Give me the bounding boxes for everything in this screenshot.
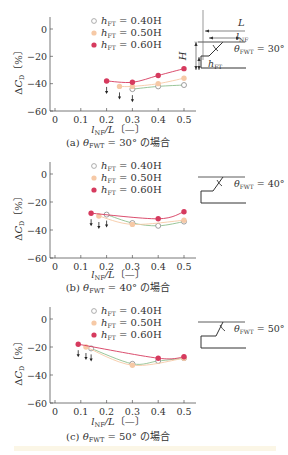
y-tick-label: −60 <box>27 106 47 117</box>
y-tick-label: −40 <box>27 225 47 236</box>
chart-panel-b: 0−20−40−6000.10.20.30.40.5ΔCD〔%〕lNF/L〔—〕… <box>13 160 285 295</box>
y-tick-label: −40 <box>27 370 47 381</box>
data-point <box>76 342 81 347</box>
x-tick-label: 0.5 <box>176 261 191 272</box>
y-axis-label: ΔCD〔%〕 <box>13 336 26 386</box>
y-tick-label: −40 <box>27 78 47 89</box>
x-tick-label: 0.4 <box>151 406 166 417</box>
svg-text:hFT = 0.40H: hFT = 0.40H <box>101 15 162 27</box>
data-point <box>181 76 186 81</box>
x-tick-label: 0 <box>52 406 58 417</box>
panel-caption: (a) θFWT = 30° の場合 <box>66 136 170 150</box>
down-arrow-icon <box>97 222 100 229</box>
y-tick-label: −60 <box>27 398 47 409</box>
y-tick-label: −60 <box>27 253 47 264</box>
data-point <box>88 211 93 216</box>
open-circle-marker-icon <box>92 164 97 169</box>
svg-text:lNF: lNF <box>236 31 248 43</box>
data-point <box>181 66 186 71</box>
svg-text:θFWT = 30°: θFWT = 30° <box>234 43 285 55</box>
x-tick-label: 0.1 <box>73 261 88 272</box>
legend-item: hFT = 0.50H <box>91 27 161 39</box>
panel-caption: (b) θFWT = 40° の場合 <box>66 281 171 295</box>
svg-text:L: L <box>237 17 245 28</box>
x-tick-label: 0.4 <box>151 261 166 272</box>
filled-circle-marker-icon <box>91 175 96 180</box>
legend-item: hFT = 0.50H <box>91 172 161 184</box>
legend-item: hFT = 0.60H <box>91 39 161 51</box>
data-point <box>156 216 161 221</box>
data-point <box>130 363 135 368</box>
data-point <box>156 223 161 228</box>
svg-text:θFWT = 40°: θFWT = 40° <box>234 178 285 190</box>
svg-text:hFT = 0.50H: hFT = 0.50H <box>101 172 162 184</box>
down-arrow-icon <box>105 87 108 94</box>
legend-item: hFT = 0.40H <box>92 305 162 317</box>
filled-circle-marker-icon <box>91 332 96 337</box>
down-arrow-icon <box>90 219 93 226</box>
down-arrow-icon <box>131 95 134 102</box>
x-tick-label: 0.1 <box>73 114 88 125</box>
data-point <box>156 356 161 361</box>
data-point <box>181 209 186 214</box>
svg-text:ΔCD〔%〕: ΔCD〔%〕 <box>13 45 26 95</box>
data-point <box>104 78 109 83</box>
y-tick-label: −20 <box>27 197 47 208</box>
y-tick-label: 0 <box>41 314 47 325</box>
x-tick-label: 0 <box>52 114 58 125</box>
svg-text:θFWT = 50°: θFWT = 50° <box>234 323 285 335</box>
svg-text:hFT: hFT <box>208 58 222 70</box>
svg-text:H: H <box>177 51 188 61</box>
svg-text:ΔCD〔%〕: ΔCD〔%〕 <box>13 336 26 386</box>
legend-item: hFT = 0.60H <box>91 329 161 341</box>
svg-text:hFT = 0.60H: hFT = 0.60H <box>101 329 162 341</box>
data-point <box>156 81 161 86</box>
data-point <box>182 83 187 88</box>
svg-text:hFT = 0.40H: hFT = 0.40H <box>101 160 162 172</box>
legend-item: hFT = 0.40H <box>92 15 162 27</box>
y-tick-label: −20 <box>27 342 47 353</box>
svg-text:hFT = 0.50H: hFT = 0.50H <box>101 317 162 329</box>
x-tick-label: 0 <box>52 261 58 272</box>
y-tick-label: 0 <box>41 169 47 180</box>
legend-item: hFT = 0.60H <box>91 184 161 196</box>
filled-circle-marker-icon <box>91 320 96 325</box>
geometry-diagram: θFWT = 40° <box>198 177 285 203</box>
open-circle-marker-icon <box>92 309 97 314</box>
y-tick-label: 0 <box>41 24 47 35</box>
down-arrow-icon <box>77 350 80 357</box>
data-point <box>130 222 135 227</box>
geometry-diagram: θFWT = 50° <box>198 322 285 348</box>
x-tick-label: 0.5 <box>176 406 191 417</box>
down-arrow-icon <box>90 354 93 361</box>
data-point <box>181 354 186 359</box>
panel-caption: (c) θFWT = 50° の場合 <box>66 430 170 444</box>
svg-text:hFT = 0.60H: hFT = 0.60H <box>101 39 162 51</box>
x-tick-label: 0.1 <box>73 406 88 417</box>
x-axis-label: lNF/L〔—〕 <box>91 124 144 137</box>
data-point <box>117 84 122 89</box>
svg-text:ΔCD〔%〕: ΔCD〔%〕 <box>13 191 26 241</box>
x-tick-label: 0.4 <box>151 114 166 125</box>
y-axis-label: ΔCD〔%〕 <box>13 45 26 95</box>
x-tick-label: 0.5 <box>176 114 191 125</box>
data-point <box>181 218 186 223</box>
chart-panel-a: 0−20−40−6000.10.20.30.40.5ΔCD〔%〕lNF/L〔—〕… <box>13 10 285 150</box>
down-arrow-icon <box>84 353 87 360</box>
bottom-strip <box>14 446 276 451</box>
svg-text:hFT = 0.40H: hFT = 0.40H <box>101 305 162 317</box>
data-point <box>130 80 135 85</box>
x-axis-label: lNF/L〔—〕 <box>91 416 144 429</box>
y-tick-label: −20 <box>27 51 47 62</box>
filled-circle-marker-icon <box>91 30 96 35</box>
legend-item: hFT = 0.50H <box>91 317 161 329</box>
y-axis-label: ΔCD〔%〕 <box>13 191 26 241</box>
down-arrow-icon <box>118 92 121 99</box>
svg-text:hFT = 0.60H: hFT = 0.60H <box>101 184 162 196</box>
svg-text:hFT = 0.50H: hFT = 0.50H <box>101 27 162 39</box>
filled-circle-marker-icon <box>91 187 96 192</box>
legend-item: hFT = 0.40H <box>92 160 162 172</box>
data-point <box>156 73 161 78</box>
down-arrow-icon <box>105 221 108 228</box>
figure: 0−20−40−6000.10.20.30.40.5ΔCD〔%〕lNF/L〔—〕… <box>0 0 288 455</box>
